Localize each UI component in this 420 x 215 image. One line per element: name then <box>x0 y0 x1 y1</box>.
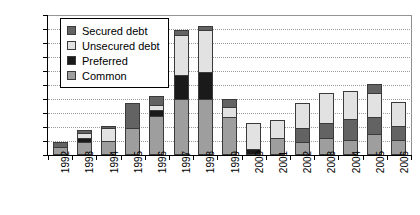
bar-segment <box>198 30 213 72</box>
bar-segment <box>367 117 382 134</box>
stacked-bar[interactable] <box>343 91 358 155</box>
stacked-bar[interactable] <box>222 99 237 155</box>
x-axis-label-slot: 2000 <box>242 160 266 212</box>
legend-item-label: Unsecured debt <box>82 40 160 52</box>
x-axis-label-slot: 1993 <box>72 160 96 212</box>
chart-legend: Secured debtUnsecured debtPreferredCommo… <box>60 18 169 88</box>
y-axis-tick-mark <box>43 127 47 128</box>
y-axis-tick-mark <box>43 29 47 30</box>
x-axis-label-slot: 1998 <box>193 160 217 212</box>
x-axis-label-slot: 2005 <box>363 160 387 212</box>
bar-segment <box>149 116 164 155</box>
legend-item[interactable]: Preferred <box>67 53 160 68</box>
y-axis-tick-mark <box>43 15 47 16</box>
x-axis-tick-label: 2003 <box>326 151 337 173</box>
bar-segment <box>198 99 213 155</box>
y-axis-tick-mark <box>43 155 47 156</box>
bar-slot <box>266 15 290 155</box>
legend-item-label: Preferred <box>82 55 128 67</box>
x-axis-label-slot: 2003 <box>314 160 338 212</box>
bar-slot <box>363 15 387 155</box>
stacked-bar[interactable] <box>125 103 140 155</box>
legend-swatch-icon <box>67 56 76 65</box>
bar-segment <box>295 128 310 142</box>
bar-slot <box>242 15 266 155</box>
x-axis-label-slot: 2001 <box>266 160 290 212</box>
bar-segment <box>149 96 164 104</box>
stacked-bar-chart: 050100150200250300350400450500 199219931… <box>0 0 420 215</box>
stacked-bar[interactable] <box>319 93 334 155</box>
bar-segment <box>222 107 237 117</box>
x-axis-tick-label: 2002 <box>302 151 313 173</box>
x-axis-tick-label: 1992 <box>60 151 71 173</box>
x-axis-tick-label: 1994 <box>109 151 120 173</box>
bar-segment <box>222 99 237 107</box>
x-axis-tick-label: 2001 <box>278 151 289 173</box>
bar-segment <box>222 117 237 155</box>
bar-segment <box>174 99 189 155</box>
bar-segment <box>174 75 189 99</box>
x-axis-label-slot: 1996 <box>145 160 169 212</box>
x-axis-tick-label: 2005 <box>375 151 386 173</box>
bar-slot <box>314 15 338 155</box>
x-axis-tick-label: 1993 <box>84 151 95 173</box>
legend-item[interactable]: Common <box>67 68 160 83</box>
x-axis-label-slot: 2006 <box>387 160 411 212</box>
bar-segment <box>391 102 406 126</box>
bar-segment <box>198 72 213 99</box>
y-axis-tick-mark <box>43 57 47 58</box>
bar-slot <box>338 15 362 155</box>
y-axis-tick-mark <box>43 85 47 86</box>
bar-segment <box>270 120 285 138</box>
x-axis-tick-mark <box>411 156 412 160</box>
bar-segment <box>295 103 310 128</box>
x-axis-tick-label: 2000 <box>254 151 265 173</box>
x-axis-label-slot: 1992 <box>48 160 72 212</box>
stacked-bar[interactable] <box>295 103 310 155</box>
legend-swatch-icon <box>67 71 76 80</box>
y-axis-tick-mark <box>43 71 47 72</box>
x-axis-tick-label: 1999 <box>230 151 241 173</box>
bar-segment <box>101 128 116 141</box>
x-axis-label-slot: 2002 <box>290 160 314 212</box>
bar-segment <box>174 35 189 76</box>
x-axis-label-slot: 1995 <box>121 160 145 212</box>
x-axis-label-slot: 2004 <box>338 160 362 212</box>
x-axis-tick-label: 1998 <box>205 151 216 173</box>
bar-slot <box>169 15 193 155</box>
x-axis-tick-label: 1995 <box>133 151 144 173</box>
bar-segment <box>367 93 382 117</box>
stacked-bar[interactable] <box>367 84 382 155</box>
bar-segment <box>343 91 358 119</box>
x-axis-tick-label: 2004 <box>351 151 362 173</box>
x-axis-label-slot: 1999 <box>217 160 241 212</box>
legend-item-label: Secured debt <box>82 25 147 37</box>
y-axis-tick-mark <box>43 141 47 142</box>
x-axis-labels: 1992199319941995199619971998199920002001… <box>48 160 411 212</box>
stacked-bar[interactable] <box>270 120 285 155</box>
y-axis-tick-mark <box>43 113 47 114</box>
bar-segment <box>319 123 334 138</box>
stacked-bar[interactable] <box>391 102 406 155</box>
x-axis-label-slot: 1997 <box>169 160 193 212</box>
bar-segment <box>125 103 140 128</box>
x-axis-tick-label: 1997 <box>181 151 192 173</box>
bar-segment <box>391 126 406 140</box>
stacked-bar[interactable] <box>198 26 213 155</box>
legend-item-label: Common <box>82 70 127 82</box>
x-axis-label-slot: 1994 <box>96 160 120 212</box>
stacked-bar[interactable] <box>174 30 189 155</box>
stacked-bar[interactable] <box>149 96 164 155</box>
legend-swatch-icon <box>67 41 76 50</box>
bar-slot <box>193 15 217 155</box>
legend-item[interactable]: Unsecured debt <box>67 38 160 53</box>
bar-slot <box>290 15 314 155</box>
bar-slot <box>217 15 241 155</box>
bar-slot <box>387 15 411 155</box>
bar-segment <box>343 119 358 140</box>
x-axis-tick-label: 2006 <box>399 151 410 173</box>
y-axis-tick-mark <box>43 43 47 44</box>
legend-swatch-icon <box>67 26 76 35</box>
x-axis-tick-label: 1996 <box>157 151 168 173</box>
legend-item[interactable]: Secured debt <box>67 23 160 38</box>
